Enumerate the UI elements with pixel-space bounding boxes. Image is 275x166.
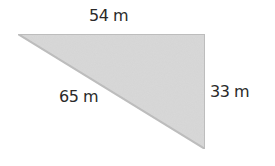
side-label-hypotenuse: 65 m <box>59 87 98 106</box>
side-label-right: 33 m <box>210 82 249 101</box>
side-label-top: 54 m <box>89 6 128 25</box>
triangle-shape <box>18 34 205 149</box>
